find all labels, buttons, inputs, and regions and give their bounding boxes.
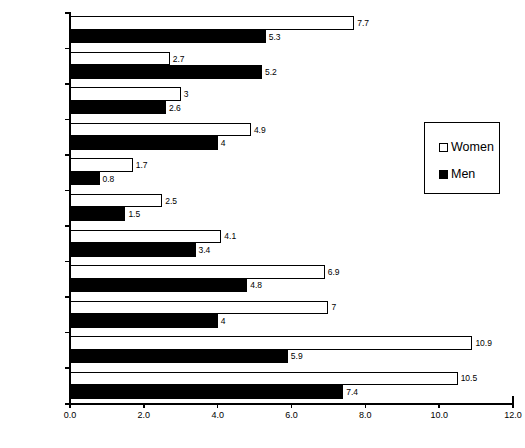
bar-value-label: 7.4 (346, 388, 358, 397)
category-row: Dressing4.13.4 (70, 225, 513, 261)
bar-women: 6.9 (70, 265, 325, 279)
x-axis-tick-label: 0.0 (64, 411, 77, 420)
category-row: Walking10.57.4 (70, 367, 513, 403)
bar-value-label: 5.3 (269, 32, 281, 41)
bar-value-label: 1.7 (136, 161, 148, 170)
category-tick (65, 190, 70, 192)
category-tick (65, 154, 70, 156)
bar-men: 5.2 (70, 65, 262, 79)
bar-value-label: 2.5 (165, 196, 177, 205)
black-square-icon (439, 170, 448, 179)
bar-women: 4.9 (70, 123, 251, 137)
x-axis-tick (365, 403, 367, 408)
category-row: Bathing74 (70, 296, 513, 332)
x-axis-tick (438, 403, 440, 408)
bar-value-label: 2.6 (169, 103, 181, 112)
bar-women: 2.5 (70, 194, 162, 208)
category-row: Lt Hswrk7.75.3 (70, 12, 513, 48)
category-tick (65, 296, 70, 298)
x-axis-tick-label: 12.0 (504, 411, 522, 420)
bar-men: 4 (70, 314, 218, 328)
bar-women: 1.7 (70, 158, 133, 172)
x-axis-tick-label: 10.0 (430, 411, 448, 420)
x-axis-tick (291, 403, 293, 408)
bar-men: 3.4 (70, 243, 196, 257)
bar-chart: Lt Hswrk7.75.3Using Phone2.75.2Mng Money… (0, 0, 525, 448)
bar-value-label: 4.9 (254, 125, 266, 134)
bar-men: 5.3 (70, 30, 266, 44)
x-axis-tick-label: 8.0 (359, 411, 372, 420)
x-axis-tick-label: 2.0 (138, 411, 151, 420)
bar-value-label: 1.5 (128, 210, 140, 219)
bar-value-label: 10.5 (461, 374, 478, 383)
bar-men: 0.8 (70, 172, 100, 186)
bar-value-label: 4 (221, 139, 226, 148)
bar-men: 4.8 (70, 279, 247, 293)
bar-value-label: 5.9 (291, 352, 303, 361)
legend-label-women: Women (451, 141, 494, 154)
bar-women: 10.9 (70, 336, 472, 350)
x-axis-tick (69, 403, 71, 408)
legend-entry-men: Men (439, 168, 475, 181)
category-tick (65, 119, 70, 121)
legend-entry-women: Women (439, 141, 494, 154)
bar-women: 4.1 (70, 230, 221, 244)
x-axis-tick-label: 6.0 (285, 411, 298, 420)
white-square-icon (439, 143, 448, 152)
bar-women: 3 (70, 87, 181, 101)
bar-men: 7.4 (70, 385, 343, 399)
category-tick (65, 225, 70, 227)
bar-women: 7 (70, 301, 328, 315)
category-tick (65, 48, 70, 50)
bar-value-label: 6.9 (328, 268, 340, 277)
bar-women: 2.7 (70, 52, 170, 66)
bar-value-label: 3 (184, 90, 189, 99)
bar-value-label: 5.2 (265, 68, 277, 77)
category-tick (65, 83, 70, 85)
category-tick (65, 367, 70, 369)
bar-men: 5.9 (70, 350, 288, 364)
bar-value-label: 4 (221, 317, 226, 326)
legend-label-men: Men (451, 168, 475, 181)
bar-women: 10.5 (70, 372, 458, 386)
bar-men: 4 (70, 136, 218, 150)
category-row: Using Phone2.75.2 (70, 48, 513, 84)
bar-value-label: 4.8 (250, 281, 262, 290)
bar-value-label: 3.4 (199, 246, 211, 255)
category-tick (65, 332, 70, 334)
category-tick (65, 261, 70, 263)
plot-area: Lt Hswrk7.75.3Using Phone2.75.2Mng Money… (70, 12, 513, 403)
category-row: Toileting2.51.5 (70, 190, 513, 226)
bar-value-label: 0.8 (103, 174, 115, 183)
bar-value-label: 7 (331, 303, 336, 312)
bar-value-label: 7.7 (357, 19, 369, 28)
category-row: Transfer6.94.8 (70, 261, 513, 297)
bar-men: 1.5 (70, 207, 125, 221)
bar-women: 7.7 (70, 16, 354, 30)
bar-men: 2.6 (70, 101, 166, 115)
bar-value-label: 4.1 (224, 232, 236, 241)
category-tick (65, 12, 70, 14)
category-row: Getting Out10.95.9 (70, 332, 513, 368)
x-axis-tick-label: 4.0 (211, 411, 224, 420)
chart-legend: Women Men (424, 122, 500, 194)
category-row: Mng Money32.6 (70, 83, 513, 119)
x-axis-tick (217, 403, 219, 408)
bar-value-label: 10.9 (475, 339, 492, 348)
x-axis-tick (143, 403, 145, 408)
bar-value-label: 2.7 (173, 54, 185, 63)
x-axis-tick (512, 403, 514, 408)
